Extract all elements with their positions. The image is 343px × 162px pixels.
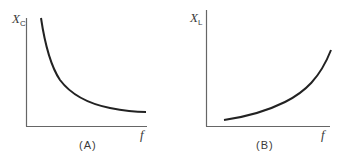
charts-canvas bbox=[0, 0, 343, 162]
panel-b-xlabel: f bbox=[321, 128, 325, 141]
panel-a-ylabel-main: X bbox=[12, 11, 20, 26]
panel-b-curve bbox=[224, 50, 331, 120]
panel-b-ylabel: XL bbox=[190, 11, 202, 24]
panel-a-ylabel: XC bbox=[12, 12, 26, 25]
panel-a-curve bbox=[41, 18, 146, 112]
panel-a-xlabel: f bbox=[140, 128, 144, 141]
panel-b-ylabel-sub: L bbox=[198, 18, 202, 27]
panel-b-ylabel-main: X bbox=[190, 10, 198, 25]
panel-a-ylabel-sub: C bbox=[20, 19, 26, 28]
panel-b-caption: (B) bbox=[256, 140, 274, 151]
panel-a-caption: (A) bbox=[79, 140, 97, 151]
